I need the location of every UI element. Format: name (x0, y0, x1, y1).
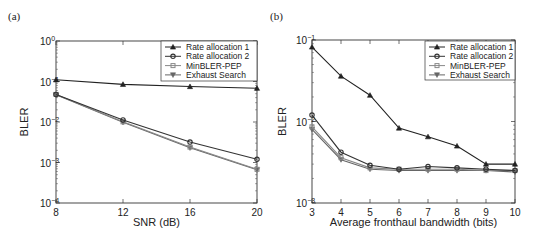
y-tick-label: 100 (40, 35, 55, 47)
series-rate-allocation-2 (54, 92, 259, 161)
chart-panel-a: (a)10010−110−210−310−48121620SNR (dB)BLE… (8, 10, 263, 228)
panel-label: (b) (270, 10, 283, 23)
x-tick-label: 10 (509, 207, 521, 218)
y-axis-label: BLER (18, 108, 30, 137)
figure: (a)10010−110−210−310−48121620SNR (dB)BLE… (0, 0, 535, 251)
panel-label: (a) (8, 10, 21, 23)
x-tick-label: 12 (117, 207, 129, 218)
triangle-up-marker-icon (309, 44, 314, 49)
x-tick-label: 20 (251, 207, 263, 218)
chart-panel-b: (b)10−110−210−3345678910Average fronthau… (270, 10, 521, 228)
x-tick-label: 16 (184, 207, 196, 218)
legend: Rate allocation 1Rate allocation 2MinBLE… (425, 41, 515, 80)
x-axis-label: SNR (dB) (133, 216, 180, 228)
x-tick-label: 3 (309, 207, 315, 218)
series-minbler-pep (54, 92, 259, 171)
legend-entry: Exhaust Search (186, 70, 246, 80)
triangle-up-marker-icon (367, 93, 372, 98)
legend: Rate allocation 1Rate allocation 2MinBLE… (161, 41, 257, 81)
x-axis-label: Average fronthaul bandwidth (bits) (330, 216, 497, 228)
legend-entry: Exhaust Search (450, 70, 510, 80)
y-axis-label: BLER (276, 107, 288, 136)
x-tick-label: 8 (53, 207, 59, 218)
